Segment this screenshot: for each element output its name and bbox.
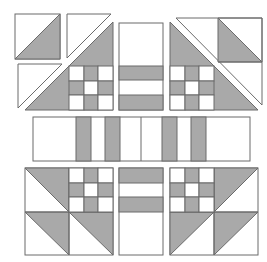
corner-block-bottom-left	[25, 168, 113, 255]
hst-square-top-left	[15, 14, 60, 59]
ninepatch-bottom-left	[69, 168, 113, 212]
quilt-diagram	[0, 0, 267, 262]
middle-band	[33, 117, 250, 161]
ninepatch-top-left	[69, 66, 113, 110]
corner-block-bottom-right	[170, 168, 258, 255]
center-column-bottom	[119, 168, 163, 255]
center-column-top	[119, 23, 163, 110]
ninepatch-bottom-right	[170, 168, 214, 212]
ninepatch-top-right	[170, 66, 214, 110]
